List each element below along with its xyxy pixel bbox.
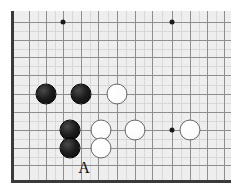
- grid-line-vertical-0: [29, 11, 30, 183]
- grid-line-horizontal-1: [11, 40, 231, 41]
- grid-line-vertical-8: [172, 11, 173, 183]
- grid-line-vertical-7: [152, 11, 153, 183]
- go-board[interactable]: A: [11, 11, 231, 183]
- grid-line-vertical-6: [135, 11, 136, 183]
- black-stone-4[interactable]: [60, 138, 81, 159]
- star-point-top-left: [61, 20, 66, 25]
- white-stone-4[interactable]: [125, 120, 146, 141]
- black-stone-2[interactable]: [71, 84, 92, 105]
- screenshot-root: A: [0, 0, 231, 195]
- grid-line-horizontal-7: [11, 148, 231, 149]
- board-edge-bottom: [11, 180, 231, 183]
- white-stone-3[interactable]: [91, 138, 112, 159]
- board-edge-left: [11, 11, 14, 183]
- star-point-right: [170, 128, 175, 133]
- grid-line-horizontal-2: [11, 57, 231, 58]
- grid-line-vertical-11: [224, 11, 225, 183]
- point-label-a[interactable]: A: [78, 160, 90, 176]
- sub-grid-line-horizontal-6: [11, 139, 231, 140]
- sub-grid-line-horizontal-0: [11, 31, 231, 32]
- grid-line-vertical-2: [63, 11, 64, 183]
- grid-line-horizontal-8: [11, 165, 231, 166]
- grid-line-vertical-10: [207, 11, 208, 183]
- sub-grid-line-horizontal-7: [11, 157, 231, 158]
- sub-grid-line-horizontal-5: [11, 121, 231, 122]
- star-point-top-right: [170, 20, 175, 25]
- grid-line-horizontal-5: [11, 112, 231, 113]
- grid-line-horizontal-3: [11, 75, 231, 76]
- black-stone-1[interactable]: [36, 84, 57, 105]
- white-stone-5[interactable]: [180, 120, 201, 141]
- sub-grid-line-horizontal-2: [11, 66, 231, 67]
- white-stone-1[interactable]: [107, 84, 128, 105]
- grid-line-vertical-9: [190, 11, 191, 183]
- sub-grid-line-horizontal-1: [11, 49, 231, 50]
- grid-line-horizontal-0: [11, 22, 231, 23]
